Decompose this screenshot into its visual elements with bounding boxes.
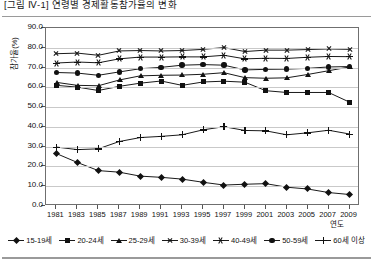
y-tick-label: 90.0 (3, 23, 43, 31)
data-point-marker (54, 80, 60, 85)
data-point-marker (117, 77, 123, 82)
x-tick-mark (118, 205, 119, 209)
y-tick-label: 80.0 (3, 43, 43, 51)
y-tick-label: 50.0 (3, 102, 43, 110)
data-point-marker (242, 49, 248, 55)
data-point-marker (346, 131, 353, 138)
data-point-marker (75, 160, 80, 165)
data-point-marker (159, 175, 164, 180)
data-point-marker (263, 181, 268, 186)
data-point-marker (242, 80, 247, 85)
legend-item[interactable]: 30-39세 (162, 236, 206, 245)
data-point-marker (221, 45, 227, 51)
data-point-marker (138, 66, 143, 71)
data-point-marker (53, 144, 60, 151)
x-axis-title: 연도 (330, 218, 344, 229)
data-point-marker (138, 81, 143, 86)
data-point-marker (74, 50, 80, 56)
data-point-marker (54, 151, 59, 156)
legend-item[interactable]: 25-29세 (111, 236, 155, 245)
legend-item[interactable]: 50-59세 (264, 236, 308, 245)
y-tick-label: 10.0 (3, 181, 43, 189)
data-point-marker (304, 129, 311, 136)
data-point-marker (179, 131, 186, 138)
data-point-marker (116, 55, 123, 62)
x-tick-mark (202, 205, 203, 209)
data-point-marker (201, 79, 206, 84)
y-tick-label: 20.0 (3, 161, 43, 169)
data-point-marker (54, 70, 59, 75)
data-point-marker (325, 127, 332, 134)
data-point-marker (305, 186, 310, 191)
data-point-marker (242, 67, 247, 72)
data-point-marker (75, 70, 80, 75)
data-point-marker (117, 69, 122, 74)
data-point-marker (220, 52, 227, 59)
data-point-marker (116, 138, 123, 145)
legend-item[interactable]: 40-49세 (213, 236, 257, 245)
gridline (46, 68, 358, 69)
data-point-marker (283, 131, 290, 138)
legend-marker-icon (162, 236, 178, 245)
data-point-marker (74, 146, 81, 153)
x-tick-mark (55, 205, 56, 209)
legend-label: 15-19세 (26, 237, 52, 245)
data-point-marker (159, 79, 164, 84)
data-point-marker (263, 76, 269, 81)
gridline (46, 87, 358, 88)
x-tick-mark (97, 205, 98, 209)
legend-marker-icon (111, 236, 127, 245)
data-point-marker (96, 168, 101, 173)
data-point-marker (347, 64, 352, 69)
chart-legend: 15-19세20-24세25-29세30-39세40-49세50-59세60세 … (0, 236, 373, 245)
data-point-marker (116, 48, 122, 54)
data-point-marker (263, 47, 269, 53)
data-point-marker (179, 72, 185, 77)
gridline (46, 147, 358, 148)
data-point-marker (220, 123, 227, 130)
legend-item[interactable]: 20-24세 (59, 236, 103, 245)
y-tick-label: 40.0 (3, 122, 43, 130)
data-point-marker (221, 183, 226, 188)
data-point-marker (241, 55, 248, 62)
data-point-marker (137, 54, 144, 61)
data-point-marker (138, 73, 144, 78)
data-point-marker (305, 72, 311, 77)
data-point-marker (325, 53, 332, 60)
legend-label: 20-24세 (77, 237, 103, 245)
data-point-marker (158, 73, 164, 78)
x-tick-mark (76, 205, 77, 209)
data-point-marker (53, 60, 60, 67)
data-point-marker (284, 47, 290, 53)
data-point-marker (95, 59, 102, 66)
data-point-marker (95, 145, 102, 152)
data-point-marker (200, 62, 205, 67)
gridline (46, 186, 358, 187)
x-tick-mark (307, 205, 308, 209)
data-point-marker (305, 47, 311, 53)
data-point-marker (96, 73, 101, 78)
data-point-marker (158, 133, 165, 140)
data-point-marker (74, 59, 81, 66)
legend-item[interactable]: 60세 이상 (315, 236, 364, 245)
data-point-marker (200, 72, 206, 77)
data-point-marker (284, 185, 289, 190)
data-point-marker (221, 79, 226, 84)
data-point-marker (284, 90, 289, 95)
data-point-marker (53, 51, 59, 57)
data-point-marker (117, 84, 122, 89)
x-tick-mark (265, 205, 266, 209)
legend-marker-icon (213, 236, 229, 245)
figure-root: [그림 Ⅳ-1] 연령별 경제활동참가율의 변화 참가율(%) 0.010.02… (0, 0, 373, 264)
data-point-marker (117, 170, 122, 175)
data-point-marker (137, 134, 144, 141)
legend-item[interactable]: 15-19세 (8, 236, 52, 245)
data-point-marker (263, 88, 268, 93)
data-point-marker (158, 65, 163, 70)
data-point-marker (201, 180, 206, 185)
x-axis-ticks: 1981198319851987198919911993199519971999… (45, 205, 359, 227)
data-point-marker (283, 55, 290, 62)
data-point-marker (304, 54, 311, 61)
legend-label: 50-59세 (282, 237, 308, 245)
legend-marker-icon (59, 236, 75, 245)
